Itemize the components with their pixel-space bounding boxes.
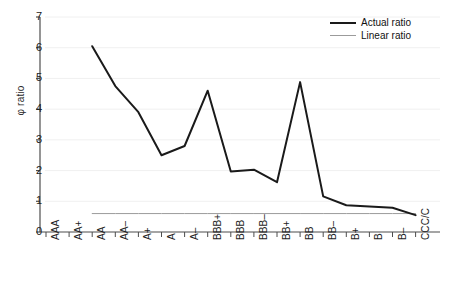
y-axis-tick-label: 2 [26,165,42,176]
y-axis-tick-label: 0 [26,226,42,237]
chart-container: φ ratio 01234567 AAAAA+AAAA–A+AA–BBB+BBB… [0,0,449,289]
y-axis-tick-label: 4 [26,103,42,114]
y-axis-tick-label: 1 [26,195,42,206]
y-axis-tick-labels: 01234567 [24,0,42,289]
series-line-actual-ratio [92,46,415,215]
legend-label-linear-ratio: Linear ratio [361,29,411,42]
y-axis-tick-label: 3 [26,134,42,145]
legend-swatch-linear-ratio [330,35,356,36]
plot-area [0,0,449,289]
legend-item-linear-ratio: Linear ratio [330,29,411,42]
gridlines [45,17,440,201]
y-axis-tick-label: 6 [26,42,42,53]
axis-lines [40,17,440,232]
chart-legend: Actual ratio Linear ratio [330,16,411,42]
legend-swatch-actual-ratio [330,22,356,24]
y-axis-tick-label: 7 [26,11,42,22]
legend-label-actual-ratio: Actual ratio [361,16,411,29]
x-axis-ticks [46,232,416,237]
y-axis-tick-label: 5 [26,72,42,83]
legend-item-actual-ratio: Actual ratio [330,16,411,29]
